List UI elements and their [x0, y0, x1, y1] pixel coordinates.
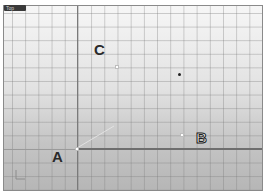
point-b[interactable] — [180, 133, 184, 137]
point-c[interactable] — [115, 65, 119, 69]
label-c: C — [94, 42, 105, 57]
marker-dot — [178, 73, 181, 76]
label-a: A — [52, 149, 63, 164]
top-viewport[interactable]: C B A — [3, 5, 263, 191]
construction-line — [4, 6, 263, 191]
label-b: B — [196, 130, 207, 145]
viewport-title-tab[interactable]: Top — [4, 5, 26, 11]
xy-axis-triad-icon — [14, 169, 26, 181]
point-a[interactable] — [75, 147, 79, 151]
